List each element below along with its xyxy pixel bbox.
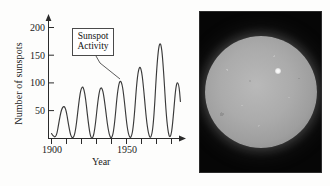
callout-line-2: Activity	[76, 41, 110, 51]
sun-granulation-texture	[205, 36, 317, 148]
x-tick-label-1900: 1900	[32, 144, 72, 155]
sunspot-figure: 200 150 100 50 1900 1950 Number of sunsp…	[0, 0, 330, 186]
x-tick-label-1950: 1950	[107, 144, 147, 155]
x-axis-title: Year	[92, 156, 110, 167]
y-axis-title: Number of sunspots	[13, 36, 24, 132]
callout-leader-line	[96, 56, 120, 79]
sunspot-chart: 200 150 100 50 1900 1950 Number of sunsp…	[0, 0, 196, 186]
sun-disc	[205, 36, 317, 148]
x-axis-arrowhead	[179, 136, 186, 142]
sunspot-activity-callout: Sunspot Activity	[72, 28, 114, 56]
y-tick-marks	[49, 28, 55, 111]
y-axis-arrowhead	[46, 14, 52, 21]
sun-photograph	[199, 11, 322, 173]
y-tick-label-200: 200	[19, 22, 45, 33]
callout-line-1: Sunspot	[76, 31, 110, 41]
sunspot-curve	[52, 44, 181, 138]
